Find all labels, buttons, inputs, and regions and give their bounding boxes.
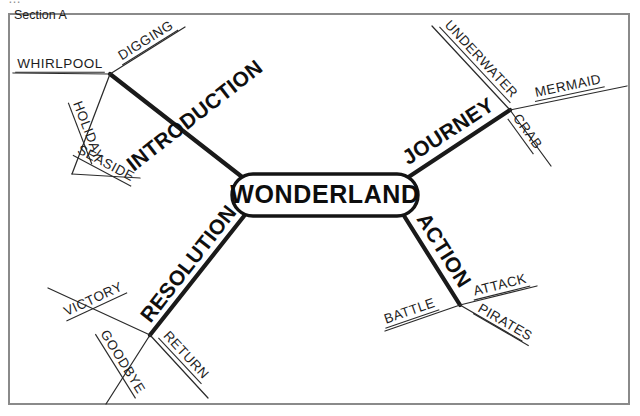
subbranch-label-attack[interactable]: ATTACK bbox=[472, 271, 528, 299]
subbranch-label-battle[interactable]: BATTLE bbox=[382, 295, 437, 326]
subbranch-label-pirates[interactable]: PIRATES bbox=[475, 301, 535, 344]
subbranch-label-underwater[interactable]: UNDERWATER bbox=[442, 17, 521, 100]
branch-label-resolution[interactable]: RESOLUTION bbox=[135, 200, 240, 326]
subbranch-label-digging[interactable]: DIGGING bbox=[115, 17, 176, 63]
subbranch-label-underline bbox=[439, 27, 510, 103]
mindmap-canvas: … Section A bbox=[0, 0, 640, 416]
subbranch-label-mermaid[interactable]: MERMAID bbox=[534, 71, 603, 100]
subbranch-label-whirlpool[interactable]: WHIRLPOOL bbox=[17, 56, 103, 71]
center-node-label: WONDERLAND bbox=[230, 180, 419, 208]
subbranch-label-goodbye[interactable]: GOODBYE bbox=[97, 327, 148, 396]
branch-label-introduction[interactable]: INTRODUCTION bbox=[122, 55, 267, 175]
branch-label-journey[interactable]: JOURNEY bbox=[398, 93, 498, 169]
center-node[interactable]: WONDERLAND bbox=[230, 174, 419, 216]
mindmap-svg: DIGGING WHIRLPOOL HOLIDAY SEASIDE UNDERW… bbox=[0, 0, 640, 416]
subbranch-line-whirlpool bbox=[13, 73, 110, 74]
